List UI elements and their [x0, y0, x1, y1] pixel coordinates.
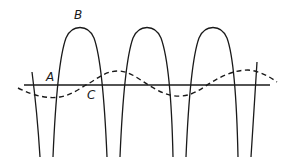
- arch-1: [53, 28, 107, 158]
- arch-2: [120, 28, 173, 158]
- waveform-diagram: A B C: [0, 0, 291, 168]
- label-a: A: [45, 70, 54, 84]
- label-c: C: [87, 88, 96, 102]
- right-partial-curve: [251, 62, 257, 157]
- label-b: B: [74, 8, 82, 22]
